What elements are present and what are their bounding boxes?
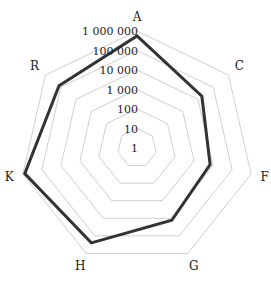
tick-label: 1 — [131, 142, 138, 155]
tick-label: 1 000 000 — [82, 25, 138, 38]
axis-label-r: R — [30, 59, 40, 73]
axis-label-g: G — [189, 259, 199, 273]
axis-label-a: A — [132, 10, 142, 24]
axis-label-h: H — [75, 259, 85, 273]
tick-label: 1 000 — [107, 84, 139, 97]
tick-label: 10 — [124, 123, 138, 136]
axis-label-c: C — [235, 59, 244, 73]
radar-tick-labels: 1101001 00010 000100 0001 000 000 — [82, 25, 138, 155]
axis-label-f: F — [261, 170, 269, 184]
tick-label: 10 000 — [100, 64, 139, 77]
tick-label: 100 000 — [93, 45, 139, 58]
tick-label: 100 — [117, 103, 138, 116]
axis-label-k: K — [5, 170, 15, 184]
radar-chart: 1101001 00010 000100 0001 000 000 ACFGHK… — [0, 0, 271, 282]
